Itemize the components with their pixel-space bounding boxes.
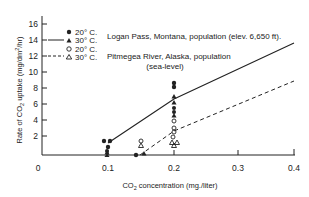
x-tick-labels: 0 0.1 0.2 0.3 0.4 bbox=[36, 163, 301, 173]
y-tick-14: 14 bbox=[29, 35, 39, 45]
legend-entry-2: 30° C. bbox=[75, 36, 97, 45]
y-tick-10: 10 bbox=[29, 67, 39, 77]
x-tick-0.3: 0.3 bbox=[232, 163, 244, 173]
y-tick-4: 4 bbox=[33, 115, 38, 125]
legend: 20° C. 30° C. 20° C. 30° C. Logan Pass, … bbox=[48, 28, 281, 71]
x-tick-0.2: 0.2 bbox=[168, 163, 180, 173]
x-tick-0.4: 0.4 bbox=[288, 163, 300, 173]
legend-group-logan-pass: Logan Pass, Montana, population (elev. 6… bbox=[107, 32, 281, 41]
series-pitmegea-20c bbox=[139, 119, 176, 143]
filled-triangle-icon bbox=[67, 38, 72, 43]
x-axis-label: CO2 concentration (mg./liter) bbox=[122, 181, 218, 191]
chart: 16 14 12 10 8 6 4 2 0 0.1 0.2 0.3 0.4 CO… bbox=[0, 0, 309, 197]
y-tick-6: 6 bbox=[33, 99, 38, 109]
legend-entry-4: 30° C. bbox=[75, 53, 97, 62]
x-tick-0: 0 bbox=[36, 163, 41, 173]
pitmegea-fit-line bbox=[140, 81, 294, 155]
y-tick-12: 12 bbox=[29, 51, 39, 61]
y-tick-8: 8 bbox=[33, 83, 38, 93]
open-triangle-icon bbox=[66, 55, 71, 60]
y-ticks bbox=[42, 24, 47, 136]
y-axis-label: Rate of CO2 uptake (mg/dm2/hr) bbox=[14, 36, 25, 144]
legend-group-pitmegea-line2: (sea-level) bbox=[146, 62, 184, 71]
y-tick-labels: 16 14 12 10 8 6 4 2 bbox=[29, 19, 39, 141]
open-circle-icon bbox=[67, 47, 71, 51]
legend-group-pitmegea-line1: Pitmegea River, Alaska, population bbox=[107, 52, 231, 61]
x-tick-0.1: 0.1 bbox=[102, 163, 114, 173]
y-tick-2: 2 bbox=[33, 131, 38, 141]
filled-circle-icon bbox=[67, 30, 71, 34]
y-tick-16: 16 bbox=[29, 19, 39, 29]
